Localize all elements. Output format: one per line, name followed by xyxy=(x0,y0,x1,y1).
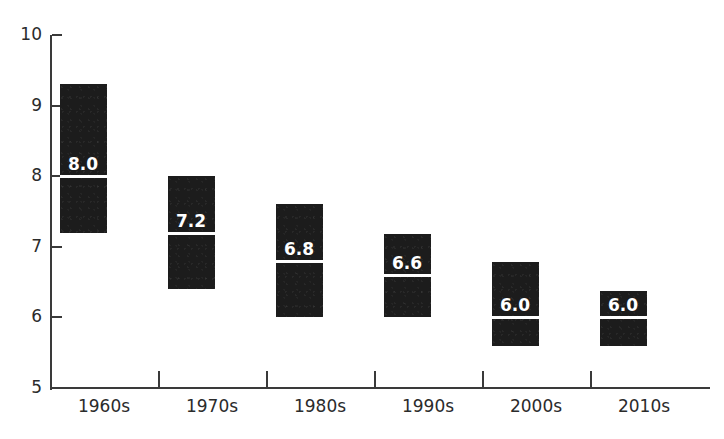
x-tick-mark xyxy=(590,371,592,387)
median-line xyxy=(384,274,431,277)
x-tick-mark xyxy=(158,371,160,387)
median-line xyxy=(276,260,323,263)
median-value-label: 6.8 xyxy=(276,241,323,258)
plot-area: 1098765 1960s1970s1980s1990s2000s2010s 8… xyxy=(0,0,724,439)
y-tick-label: 5 xyxy=(0,379,42,396)
x-tick-mark xyxy=(266,371,268,387)
y-tick-label: 7 xyxy=(0,238,42,255)
median-value-label: 6.0 xyxy=(492,297,539,314)
x-tick-label: 1960s xyxy=(50,398,158,415)
median-line xyxy=(600,316,647,319)
median-value-label: 8.0 xyxy=(60,156,107,173)
y-tick-label: 10 xyxy=(0,26,42,43)
median-value-label: 6.0 xyxy=(600,297,647,314)
y-axis-line xyxy=(50,35,52,390)
median-line xyxy=(492,316,539,319)
median-line xyxy=(60,175,107,178)
chart-figure: 1098765 1960s1970s1980s1990s2000s2010s 8… xyxy=(0,0,724,439)
x-tick-mark xyxy=(482,371,484,387)
y-tick-mark xyxy=(52,387,62,389)
x-axis-line xyxy=(50,387,710,389)
y-tick-mark xyxy=(52,34,62,36)
x-tick-label: 2010s xyxy=(590,398,698,415)
y-tick-label: 9 xyxy=(0,97,42,114)
median-value-label: 7.2 xyxy=(168,213,215,230)
x-tick-label: 1980s xyxy=(266,398,374,415)
y-tick-label: 8 xyxy=(0,167,42,184)
x-tick-label: 2000s xyxy=(482,398,590,415)
y-tick-mark xyxy=(52,246,62,248)
y-tick-mark xyxy=(52,316,62,318)
x-tick-mark xyxy=(374,371,376,387)
median-line xyxy=(168,232,215,235)
x-tick-label: 1990s xyxy=(374,398,482,415)
median-value-label: 6.6 xyxy=(384,255,431,272)
x-tick-label: 1970s xyxy=(158,398,266,415)
y-tick-label: 6 xyxy=(0,308,42,325)
